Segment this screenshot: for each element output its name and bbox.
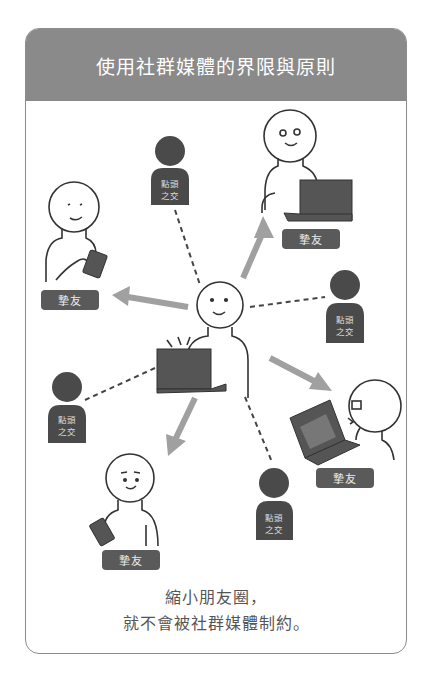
acquaintance-label-line2: 之交: [259, 524, 289, 536]
friend-top-right-laptop-icon: [284, 180, 352, 221]
acquaintance-label-line1: 點頭: [155, 178, 185, 190]
acquaintance-label-line2: 之交: [52, 426, 82, 438]
friend-right: [348, 380, 401, 460]
friend-tag-left: 摯友: [41, 290, 99, 310]
friend-bottom-left-phone-icon: [89, 518, 115, 547]
acquaintance-label-line2: 之交: [155, 190, 185, 202]
acquaintance-label-right: 點頭 之交: [330, 314, 360, 338]
acquaintance-label-line1: 點頭: [259, 512, 289, 524]
friend-bottom-left: [104, 454, 158, 546]
friend-tag-bottom-left: 摯友: [102, 550, 160, 570]
acquaintance-label-line2: 之交: [330, 326, 360, 338]
social-network-illustration: [0, 0, 427, 684]
center-laptop-icon: [157, 349, 226, 393]
friend-tag-top-right: 摯友: [282, 229, 340, 249]
friend-left-phone-icon: [82, 250, 107, 279]
caption: 縮小朋友圈， 就不會被社群媒體制約。: [25, 585, 407, 637]
acquaintance-label-line1: 點頭: [52, 414, 82, 426]
acquaintance-label-left: 點頭 之交: [52, 414, 82, 438]
acquaintance-label-bottom: 點頭 之交: [259, 512, 289, 536]
caption-line1: 縮小朋友圈，: [25, 585, 407, 611]
caption-line2: 就不會被社群媒體制約。: [25, 611, 407, 637]
acquaintance-label-top: 點頭 之交: [155, 178, 185, 202]
arrow-head-up-icon: [254, 216, 274, 238]
friend-tag-right: 摯友: [316, 468, 374, 488]
acquaintance-label-line1: 點頭: [330, 314, 360, 326]
arrows: [128, 232, 316, 440]
arrow-head-left-icon: [112, 286, 130, 306]
